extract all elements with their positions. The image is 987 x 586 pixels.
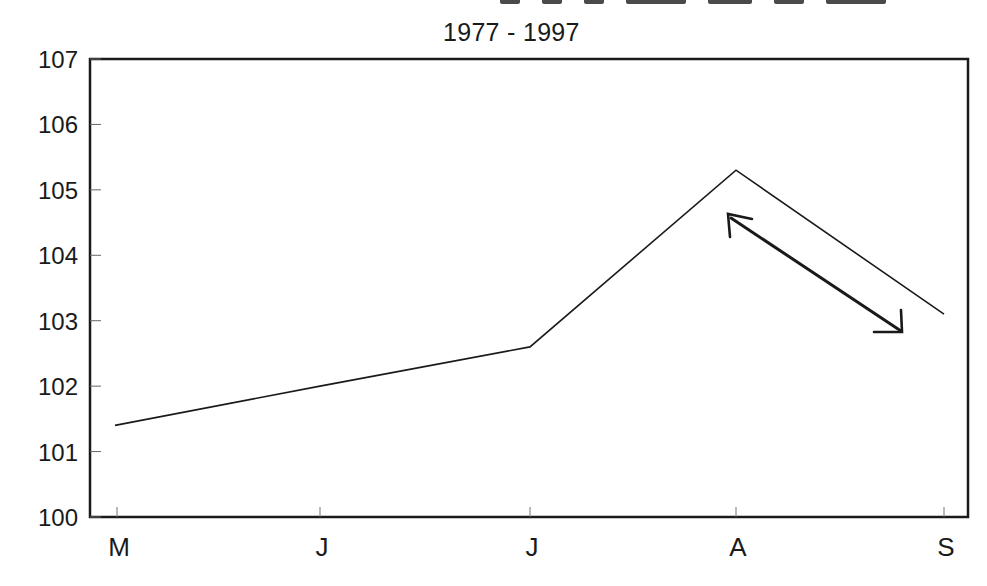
y-tick-label: 107 bbox=[38, 46, 78, 73]
x-tick-label: J bbox=[526, 532, 539, 562]
data-line bbox=[115, 170, 944, 425]
line-chart: 100101102103104105106107 MJJAS bbox=[0, 0, 987, 586]
x-tick-label: J bbox=[316, 532, 329, 562]
x-tick-label: S bbox=[937, 532, 954, 562]
x-tick-label: M bbox=[108, 532, 130, 562]
y-tick-label: 100 bbox=[38, 504, 78, 531]
y-tick-label: 102 bbox=[38, 373, 78, 400]
y-tick-label: 106 bbox=[38, 111, 78, 138]
double-arrow-annotation bbox=[728, 214, 902, 332]
y-tick-label: 103 bbox=[38, 308, 78, 335]
y-tick-label: 104 bbox=[38, 242, 78, 269]
y-axis: 100101102103104105106107 bbox=[38, 46, 101, 531]
y-tick-label: 101 bbox=[38, 439, 78, 466]
x-tick-label: A bbox=[729, 532, 747, 562]
x-axis: MJJAS bbox=[108, 507, 955, 562]
y-tick-label: 105 bbox=[38, 177, 78, 204]
